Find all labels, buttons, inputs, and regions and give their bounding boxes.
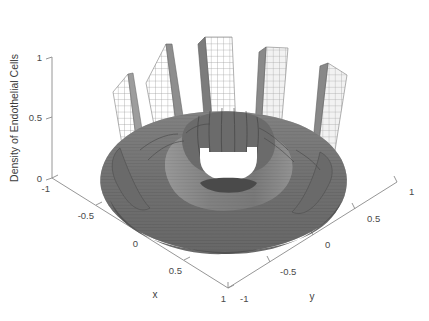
- y-axis-title: y: [310, 291, 315, 302]
- x-ticklabel-1: 1: [221, 293, 226, 304]
- y-ticklabel-m1: -1: [240, 293, 248, 304]
- x-axis-title: x: [153, 289, 158, 300]
- x-tick-1: [228, 285, 234, 288]
- y-ticklabel-0: 0: [325, 239, 330, 250]
- z-ticklabel-1: 1: [37, 52, 42, 63]
- y-tick-05: [352, 203, 355, 209]
- x-tick-m1: [52, 175, 58, 178]
- z-tick-0: [46, 178, 52, 180]
- y-tick-1: [394, 176, 397, 182]
- x-ticklabel-05: 0.5: [169, 265, 182, 276]
- y-ticklabel-05: 0.5: [367, 213, 380, 224]
- z-tick-1: [46, 57, 52, 59]
- y-ticklabel-m05: -0.5: [280, 266, 296, 277]
- x-tick-05: [184, 257, 190, 260]
- z-ticklabel-05: 0.5: [29, 112, 42, 123]
- y-ticklabel-1: 1: [409, 186, 414, 197]
- z-tick-05: [46, 117, 52, 119]
- surface-plot: 1 0.5 0 -1 -0.5 0 0.5 1: [0, 0, 429, 321]
- surface-mesh: [100, 37, 347, 254]
- x-ticklabel-m05: -0.5: [78, 210, 94, 221]
- x-ticklabel-m1: -1: [42, 183, 50, 194]
- x-ticklabel-0: 0: [133, 238, 138, 249]
- figure-canvas: 1 0.5 0 -1 -0.5 0 0.5 1: [0, 0, 429, 321]
- x-tick-m05: [96, 202, 102, 205]
- z-ticks: 1 0.5 0: [29, 52, 52, 184]
- y-tick-m05: [267, 256, 270, 262]
- z-axis-title: Density of Endothelial Cells: [8, 54, 20, 182]
